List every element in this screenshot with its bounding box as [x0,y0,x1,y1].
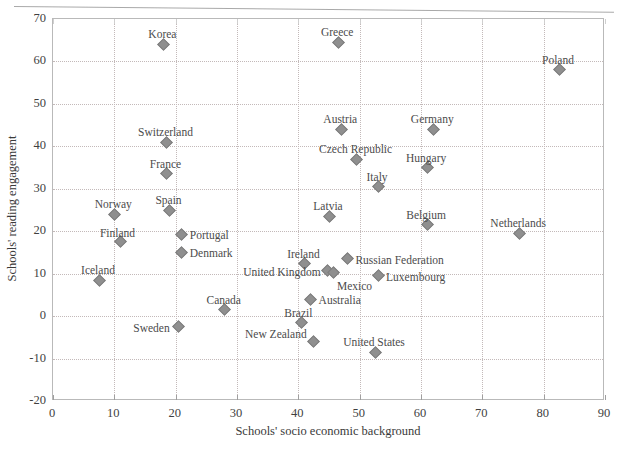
y-axis-tick-label: -10 [16,350,46,365]
data-point-label: United States [343,337,405,349]
data-point-marker [341,252,354,265]
y-axis-tick-label: 60 [16,53,46,68]
x-axis-tick [544,395,545,400]
data-point-marker [175,246,188,259]
data-point-label: New Zealand [245,329,307,341]
y-axis-tick-label: 50 [16,95,46,110]
gridline-horizontal [53,61,603,62]
gridline-horizontal [53,189,603,190]
data-point-label: Denmark [190,248,233,260]
gridline-horizontal [53,316,603,317]
data-point-marker [172,320,185,333]
data-point-label: Italy [367,172,388,184]
data-point-label: Iceland [81,265,115,277]
x-axis-tick [482,395,483,400]
x-axis-tick-top [605,19,606,24]
data-point-label: Czech Republic [319,144,392,156]
gridline-vertical [176,19,177,399]
gridline-horizontal [53,359,603,360]
gridline-vertical [237,19,238,399]
y-axis-tick-label: 40 [16,138,46,153]
x-axis-tick-label: 0 [49,406,55,421]
data-point-label: Russian Federation [355,255,443,267]
y-axis-tick-label: 10 [16,265,46,280]
data-point-label: Luxembourg [386,272,445,284]
y-axis-tick-label: -20 [16,393,46,408]
data-point-label: Sweden [133,323,169,335]
x-axis-tick [605,395,606,400]
x-axis-tick-top [544,19,545,24]
data-point-marker [304,293,317,306]
data-point-label: Poland [542,55,574,67]
data-point-label: Latvia [313,201,342,213]
x-axis-tick-label: 30 [230,406,243,421]
x-axis-tick [53,395,54,400]
data-point-marker [307,335,320,348]
top-divider-rule [14,6,614,13]
x-axis-tick [421,395,422,400]
y-axis-title: Schools' reading engagement [5,119,20,299]
x-axis-tick [360,395,361,400]
data-point-label: France [150,159,181,171]
chart-page: 0102030405060708090-20-10010203040506070… [0,0,621,453]
data-point-label: Canada [206,295,240,307]
data-point-label: Austria [323,114,357,126]
x-axis-tick [298,395,299,400]
x-axis-tick-label: 60 [414,406,427,421]
data-point-label: Mexico [337,281,372,293]
data-point-label: Germany [411,114,454,126]
data-point-label: Netherlands [490,218,546,230]
x-axis-tick-top [421,19,422,24]
data-point-label: Korea [148,29,176,41]
x-axis-tick [176,395,177,400]
data-point-label: Norway [95,199,132,211]
data-point-label: United Kingdom [243,267,321,279]
x-axis-tick [237,395,238,400]
data-point-label: Hungary [406,153,446,165]
x-axis-tick-top [482,19,483,24]
gridline-vertical [544,19,545,399]
x-axis-tick-top [176,19,177,24]
data-point-marker [175,228,188,241]
gridline-vertical [298,19,299,399]
x-axis-tick-top [298,19,299,24]
x-axis-tick-label: 20 [168,406,181,421]
data-point-marker [372,269,385,282]
data-point-label: Belgium [406,210,446,222]
x-axis-tick-top [237,19,238,24]
x-axis-tick-label: 80 [536,406,549,421]
data-point-label: Brazil [284,308,312,320]
gridline-horizontal [53,104,603,105]
x-axis-tick-label: 50 [352,406,365,421]
x-axis-tick [114,395,115,400]
y-axis-tick-label: 30 [16,180,46,195]
gridline-vertical [482,19,483,399]
x-axis-tick-top [360,19,361,24]
y-axis-tick-label: 70 [16,11,46,26]
data-point-label: Ireland [287,249,320,261]
data-point-label: Greece [321,27,354,39]
x-axis-tick-label: 10 [107,406,120,421]
x-axis-tick-label: 70 [475,406,488,421]
x-axis-tick-label: 90 [598,406,611,421]
data-point-label: Spain [155,195,181,207]
x-axis-tick-top [53,19,54,24]
x-axis-tick-label: 40 [291,406,304,421]
y-axis-tick-label: 0 [16,308,46,323]
data-point-label: Australia [319,295,361,307]
x-axis-title: Schools' socio economic background [235,424,420,439]
data-point-label: Switzerland [138,127,193,139]
data-point-marker [328,266,341,279]
data-point-label: Finland [100,228,135,240]
data-point-label: Portugal [190,230,229,242]
x-axis-tick-top [114,19,115,24]
y-axis-tick-label: 20 [16,223,46,238]
